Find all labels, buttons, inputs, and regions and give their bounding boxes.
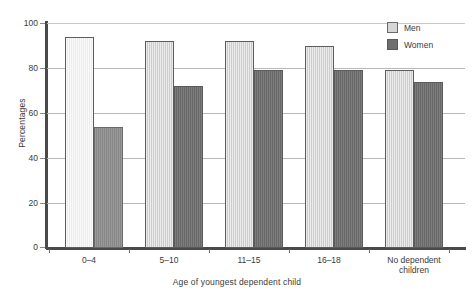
- x-tick-4: [369, 249, 370, 253]
- y-tick-label-60: 60: [4, 109, 38, 118]
- bar-men-11-15: [225, 41, 254, 248]
- y-tick-label-0: 0: [4, 243, 38, 252]
- bar-women-5-10: [174, 86, 203, 248]
- legend-swatch-men-icon: [387, 22, 398, 33]
- bar-men-16-18: [305, 46, 334, 249]
- x-axis-title: Age of youngest dependent child: [0, 277, 474, 287]
- bar-women-no-dependent-children: [414, 82, 443, 249]
- legend-label-women: Women: [404, 40, 433, 50]
- y-axis-title: Percentages: [17, 63, 27, 183]
- legend-label-men: Men: [404, 23, 421, 33]
- y-tick-label-80: 80: [4, 64, 38, 73]
- legend: Men Women: [387, 19, 467, 53]
- bar-men-0-4: [65, 37, 94, 249]
- x-tick-label-16-18: 16–18: [289, 255, 369, 265]
- bar-women-16-18: [334, 70, 363, 248]
- plot-area: [47, 23, 465, 248]
- x-tick-end: [449, 249, 450, 253]
- bar-women-11-15: [254, 70, 283, 248]
- legend-item-men: Men: [387, 19, 467, 36]
- x-tick-3: [289, 249, 290, 253]
- bar-men-no-dependent-children: [385, 70, 414, 248]
- legend-item-women: Women: [387, 36, 467, 53]
- y-tick-label-20: 20: [4, 199, 38, 208]
- bar-chart: Percentages 100 80 60 40 20 0: [0, 0, 474, 296]
- y-tick-label-40: 40: [4, 154, 38, 163]
- x-tick-label-11-15: 11–15: [209, 255, 289, 265]
- gridline-80: [47, 68, 465, 69]
- x-tick-start: [49, 249, 50, 253]
- legend-swatch-women-icon: [387, 39, 398, 50]
- x-tick-label-no-dependent-children: No dependent children: [369, 255, 459, 275]
- bar-men-5-10: [145, 41, 174, 248]
- x-tick-label-5-10: 5–10: [129, 255, 209, 265]
- x-tick-label-0-4: 0–4: [49, 255, 129, 265]
- y-tick-label-100: 100: [4, 19, 38, 28]
- bar-women-0-4: [94, 127, 123, 249]
- x-tick-2: [209, 249, 210, 253]
- x-tick-1: [129, 249, 130, 253]
